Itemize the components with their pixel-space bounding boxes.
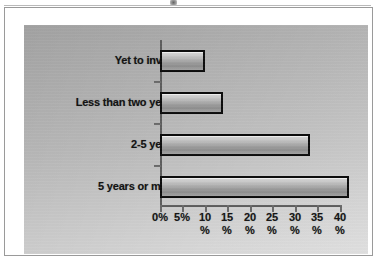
- figure-frame: Yet to invest Less than two years 2-5 ye…: [4, 7, 373, 256]
- y-axis-tick: [154, 81, 161, 83]
- bar-chart: Yet to invest Less than two years 2-5 ye…: [24, 25, 368, 254]
- y-axis-tick: [154, 165, 161, 167]
- x-axis-label-40-percent: %: [325, 224, 355, 237]
- scan-top-rule: [4, 5, 371, 6]
- x-axis-label-40-value: 40: [334, 211, 346, 223]
- bar-less-than-two-years: [160, 92, 223, 114]
- x-axis-label-30-value: 30: [289, 211, 301, 223]
- x-axis-label-20-value: 20: [244, 211, 256, 223]
- chart-plot-panel: Yet to invest Less than two years 2-5 ye…: [24, 25, 368, 254]
- bar-2-5-years: [160, 134, 310, 156]
- x-axis-label-0-value: 0%: [152, 211, 168, 223]
- bar-yet-to-invest: [160, 50, 205, 72]
- x-axis-label-5-value: 5%: [174, 211, 190, 223]
- x-axis-label-15-value: 15: [221, 211, 233, 223]
- y-axis-tick: [154, 123, 161, 125]
- x-axis-label-35-value: 35: [311, 211, 323, 223]
- x-axis-label-25-value: 25: [266, 211, 278, 223]
- x-axis-label-40: 40 %: [325, 211, 355, 237]
- x-axis-label-10-value: 10: [199, 211, 211, 223]
- bar-5-years-or-more: [160, 176, 349, 198]
